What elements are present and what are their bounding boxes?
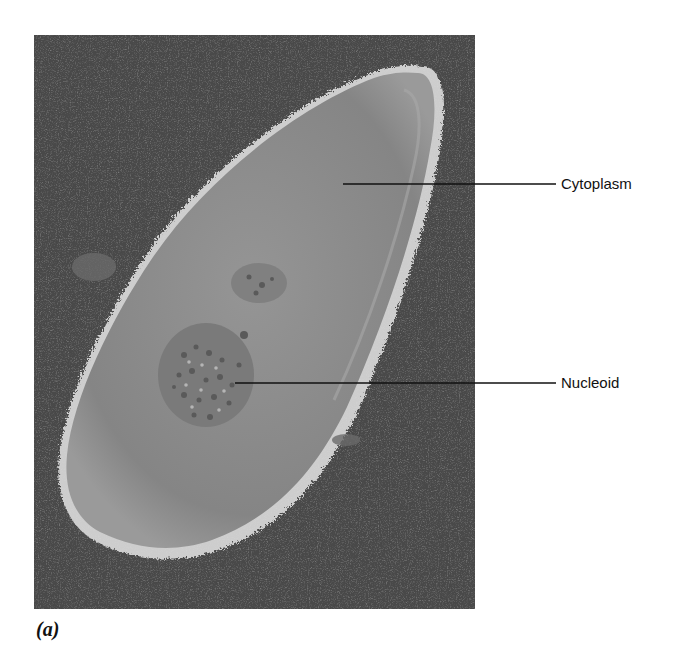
cytoplasm-label: Cytoplasm (561, 176, 632, 191)
nucleoid-label: Nucleoid (561, 375, 619, 390)
figure: Cytoplasm Nucleoid (a) (0, 0, 695, 648)
bacterium-illustration (34, 35, 475, 609)
panel-label: (a) (36, 618, 59, 641)
bacterium-micrograph (34, 35, 475, 609)
